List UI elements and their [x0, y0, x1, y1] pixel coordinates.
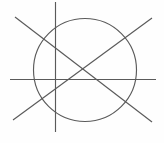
- line-drawing-svg: [0, 0, 164, 143]
- figure-canvas: [0, 0, 164, 143]
